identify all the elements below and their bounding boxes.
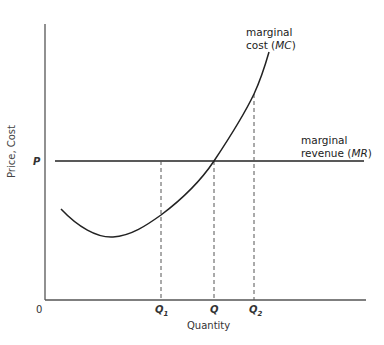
q1-subscript: 1 — [164, 310, 169, 318]
mc-label-line1: marginal — [246, 26, 296, 39]
mc-label-post: ) — [292, 39, 296, 51]
mc-label-abbr: MC — [275, 39, 291, 51]
mr-label: marginal revenue (MR) — [301, 134, 372, 160]
mr-label-line2: revenue (MR) — [301, 147, 372, 160]
mc-curve — [61, 52, 269, 237]
mr-label-pre: revenue ( — [301, 147, 351, 159]
q1-tick-label: Q1 — [155, 304, 168, 318]
p-tick-label: P — [33, 156, 40, 168]
chart-canvas — [0, 0, 384, 345]
mr-label-line1: marginal — [301, 134, 372, 147]
origin-label: 0 — [36, 304, 42, 316]
q-tick-label: Q — [210, 304, 219, 315]
q1-main: Q — [155, 304, 164, 315]
y-axis-label: Price, Cost — [6, 125, 17, 178]
mc-label: marginal cost (MC) — [246, 26, 296, 52]
mr-label-post: ) — [368, 147, 372, 159]
mc-label-line2: cost (MC) — [246, 39, 296, 52]
x-axis-label: Quantity — [187, 320, 230, 332]
q2-subscript: 2 — [258, 310, 263, 318]
mc-label-pre: cost ( — [246, 39, 275, 51]
q2-main: Q — [249, 304, 258, 315]
mr-label-abbr: MR — [351, 147, 367, 159]
q2-tick-label: Q2 — [249, 304, 262, 318]
